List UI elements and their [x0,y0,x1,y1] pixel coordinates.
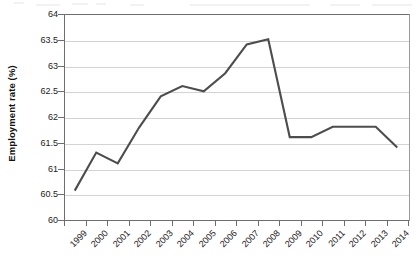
y-axis-tick [58,66,64,67]
x-axis-tick [301,221,302,226]
x-axis-tick [236,221,237,226]
scan-artifact [130,4,144,6]
y-axis-tick-label: 64 [48,9,58,19]
x-axis-tick [365,221,366,226]
x-axis-tick-label: 2005 [197,228,218,249]
x-axis-tick-label: 2008 [261,228,282,249]
y-axis-tick-label: 63.5 [40,35,58,45]
y-axis-tick [58,169,64,170]
x-axis-tick-label: 2003 [154,228,175,249]
y-axis-tick-label: 62 [48,112,58,122]
series-line-path [75,39,398,190]
x-axis-tick [172,221,173,226]
x-axis-tick [387,221,388,226]
x-axis-tick [279,221,280,226]
x-axis-tick-label: 2010 [304,228,325,249]
scan-artifact [96,3,106,5]
y-axis-tick [58,194,64,195]
x-axis-tick-label: 2014 [390,228,411,249]
y-axis-title: Employment rate (%) [0,0,22,226]
y-axis-tick-label: 61.5 [40,138,58,148]
y-axis-tick-label: 61 [48,164,58,174]
x-axis-tick [322,221,323,226]
y-axis-tick-label: 63 [48,61,58,71]
y-axis-tick-label: 62.5 [40,86,58,96]
y-axis-tick [58,91,64,92]
scan-artifact [372,4,412,6]
y-axis-tick-label: 60.5 [40,189,58,199]
x-axis-tick-label: 1999 [68,228,89,249]
x-axis-tick [86,221,87,226]
x-axis-tick-label: 2011 [326,228,347,249]
x-axis-tick [150,221,151,226]
x-axis-tick [107,221,108,226]
x-axis-tick [215,221,216,226]
x-axis-tick [344,221,345,226]
x-axis-tick [129,221,130,226]
x-axis-tick-label: 2001 [111,228,132,249]
x-axis-tick-label: 2006 [218,228,239,249]
x-axis-tick [408,221,409,226]
y-axis-tick-label: 60 [48,215,58,225]
y-axis-tick-labels: 6463.56362.56261.56160.560 [20,0,62,226]
x-axis-tick-label: 2000 [89,228,110,249]
x-axis-tick-label: 2013 [369,228,390,249]
line-chart: Employment rate (%) 6463.56362.56261.561… [0,0,417,270]
y-axis-tick [58,143,64,144]
x-axis-tick [258,221,259,226]
y-axis-tick [58,40,64,41]
y-axis-title-label: Employment rate (%) [6,65,17,161]
x-axis-tick-label: 2002 [132,228,153,249]
series-employment-rate [64,14,408,220]
scan-artifact [330,4,360,6]
x-axis-tick-label: 2009 [283,228,304,249]
x-axis-tick-label: 2012 [347,228,368,249]
x-axis-tick-label: 2004 [175,228,196,249]
scan-artifact [72,3,88,5]
x-axis-tick [64,221,65,226]
y-axis-tick [58,117,64,118]
y-axis-tick [58,14,64,15]
x-axis-tick [193,221,194,226]
x-axis-tick-label: 2007 [240,228,261,249]
scan-artifact [190,4,310,6]
